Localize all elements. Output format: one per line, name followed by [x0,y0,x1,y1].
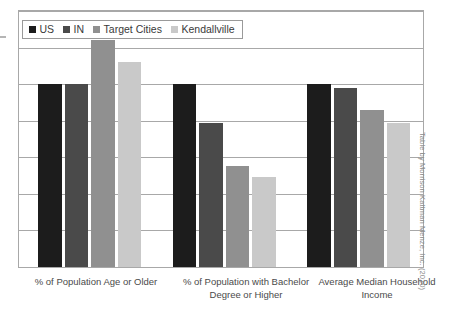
legend-item-3: Kendallville [171,24,235,35]
legend-item-1: IN [63,24,84,35]
bar-2-2 [360,110,384,267]
chart-credit-attribution: Table by Morrison Kattman Menze, Inc. (2… [418,132,427,292]
bar-2-0 [307,84,331,267]
bars-layer [19,11,423,267]
legend-label: Target Cities [104,24,162,35]
bar-2-1 [334,88,358,267]
legend-label: US [40,24,55,35]
chart-legend: USINTarget CitiesKendallville [22,20,243,39]
bar-0-2 [91,40,115,267]
legend-item-2: Target Cities [93,24,162,35]
bar-1-3 [252,177,276,267]
plot-area [18,10,424,268]
bar-0-0 [38,84,62,267]
page-edge-mark [0,36,6,38]
legend-swatch-icon [63,26,70,33]
legend-swatch-icon [171,26,178,33]
bar-1-1 [199,123,223,267]
bar-1-0 [173,84,197,267]
bar-2-3 [387,123,411,267]
bar-1-2 [226,166,250,267]
legend-label: IN [74,24,85,35]
bar-0-1 [65,84,89,267]
bar-chart-figure: USINTarget CitiesKendallville % of Popul… [0,0,462,320]
category-label-1: % of Population with Bachelor Degree or … [176,276,316,301]
legend-label: Kendallville [181,24,234,35]
legend-swatch-icon [29,26,36,33]
legend-swatch-icon [93,26,100,33]
bar-0-3 [118,62,142,267]
category-label-0: % of Population Age or Older [14,276,178,289]
legend-item-0: US [29,24,54,35]
